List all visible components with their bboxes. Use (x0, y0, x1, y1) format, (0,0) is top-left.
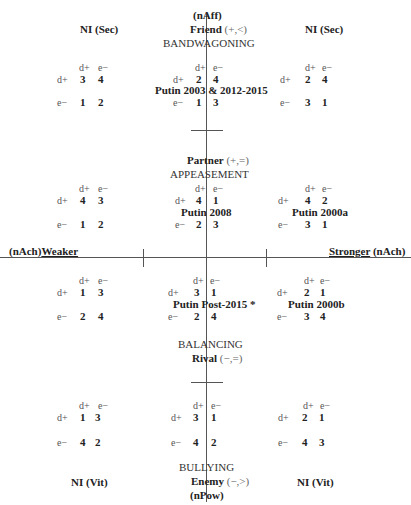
cell: 2 (322, 194, 328, 206)
row-header-e: e− (278, 437, 288, 448)
matrix-label: Putin 2008 (181, 206, 231, 218)
col-header-e: e− (98, 183, 108, 194)
col-header-d: d+ (193, 400, 204, 411)
tick-upper (191, 130, 223, 131)
axis-left-label: (nAch)Weaker (9, 245, 78, 257)
strategy-bandwagoning: BANDWAGONING (163, 37, 255, 49)
role-rival-name: Rival (192, 352, 217, 364)
cell: 1 (319, 411, 325, 423)
role-enemy: Enemy (−,>) (191, 475, 249, 487)
axis-left-prefix: (nAch) (9, 245, 41, 257)
cell: 3 (305, 218, 311, 230)
role-rival: Rival (−,=) (192, 352, 242, 364)
cell: 3 (319, 436, 325, 448)
row-header-e: e− (57, 437, 67, 448)
cell: 1 (80, 286, 86, 298)
strategy-bullying: BULLYING (179, 461, 234, 473)
col-header-e: e− (211, 400, 221, 411)
corner-top-left: NI (Sec) (80, 23, 118, 35)
cell: 2 (95, 436, 101, 448)
axis-right-suffix: (nAch) (370, 245, 405, 257)
cell: 2 (305, 73, 311, 85)
role-friend-sign: (+,<) (222, 23, 247, 35)
cell: 1 (80, 411, 86, 423)
role-friend-name: Friend (190, 23, 222, 35)
cell: 4 (80, 436, 86, 448)
row-header-d: d+ (168, 287, 179, 298)
col-header-e: e− (210, 275, 220, 286)
cell: 3 (193, 411, 199, 423)
cell: 3 (98, 194, 104, 206)
col-header-d: d+ (304, 275, 315, 286)
cell: 2 (194, 310, 200, 322)
col-header-d: d+ (79, 183, 90, 194)
role-friend: Friend (+,<) (190, 23, 247, 35)
cell: 4 (98, 310, 104, 322)
row-header-e: e− (173, 97, 183, 108)
cell: 3 (95, 411, 101, 423)
role-partner-sign: (+,=) (224, 154, 249, 166)
row-header-e: e− (57, 97, 67, 108)
row-header-e: e− (57, 219, 67, 230)
corner-top-right: NI (Sec) (305, 23, 343, 35)
cell: 4 (302, 436, 308, 448)
col-header-e: e− (322, 62, 332, 73)
col-header-e: e− (98, 275, 108, 286)
col-header-e: e− (213, 62, 223, 73)
cell: 1 (322, 96, 328, 108)
role-partner-name: Partner (187, 154, 224, 166)
cell: 4 (211, 310, 217, 322)
cell: 3 (194, 286, 200, 298)
col-header-e: e− (98, 400, 108, 411)
row-header-e: e− (280, 97, 290, 108)
row-header-d: d+ (171, 412, 182, 423)
col-header-e: e− (213, 183, 223, 194)
corner-bottom-left: NI (Vit) (71, 476, 108, 488)
col-header-d: d+ (305, 183, 316, 194)
tick-right (266, 249, 267, 267)
col-header-e: e− (322, 183, 332, 194)
axis-left-weaker: Weaker (41, 245, 78, 257)
row-header-d: d+ (277, 287, 288, 298)
axis-right-label: Stronger (nAch) (329, 245, 405, 257)
cell: 4 (305, 194, 311, 206)
row-header-d: d+ (278, 195, 289, 206)
cell: 2 (304, 286, 310, 298)
cell: 1 (80, 218, 86, 230)
matrix-label: Putin 2000a (292, 206, 348, 218)
matrix-label: Putin 2003 & 2012-2015 (155, 84, 268, 96)
row-header-d: d+ (280, 74, 291, 85)
strategy-balancing: BALANCING (178, 338, 243, 350)
cell: 3 (304, 310, 310, 322)
cell: 2 (80, 310, 86, 322)
col-header-e: e− (320, 275, 330, 286)
axis-right-stronger: Stronger (329, 245, 370, 257)
cell: 4 (322, 73, 328, 85)
corner-bottom-right: NI (Vit) (297, 476, 334, 488)
cell: 2 (302, 411, 308, 423)
role-partner: Partner (+,=) (187, 154, 249, 166)
col-header-d: d+ (195, 62, 206, 73)
col-header-d: d+ (305, 62, 316, 73)
row-header-d: d+ (57, 195, 68, 206)
row-header-e: e− (277, 311, 287, 322)
cell: 1 (213, 194, 219, 206)
col-header-d: d+ (79, 400, 90, 411)
row-header-d: d+ (57, 74, 68, 85)
col-header-e: e− (98, 62, 108, 73)
role-rival-sign: (−,=) (217, 352, 242, 364)
cell: 4 (98, 73, 104, 85)
cell: 2 (98, 218, 104, 230)
cell: 1 (322, 218, 328, 230)
role-enemy-sign: (−,>) (224, 475, 249, 487)
col-header-e: e− (320, 400, 330, 411)
cell: 1 (211, 286, 217, 298)
cell: 1 (196, 96, 202, 108)
cell: 3 (213, 218, 219, 230)
col-header-d: d+ (193, 275, 204, 286)
cell: 4 (196, 194, 202, 206)
row-header-e: e− (57, 311, 67, 322)
row-header-e: e− (278, 219, 288, 230)
cell: 1 (80, 96, 86, 108)
cell: 4 (320, 310, 326, 322)
